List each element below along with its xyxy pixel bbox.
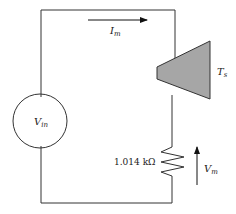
resistor-value-label: 1.014 kΩ [114, 157, 156, 167]
top-wire [41, 10, 175, 97]
source-label: Vin [34, 116, 48, 129]
resistor-symbol [161, 147, 184, 176]
sensor-trapezoid [157, 41, 210, 99]
measured-voltage-label: Vm [204, 163, 218, 176]
current-label: Im [109, 25, 121, 38]
circuit-diagram: Vin Im Ts 1.014 kΩ Vm [0, 0, 236, 214]
wires [41, 10, 175, 203]
sensor-label: Ts [217, 66, 228, 79]
